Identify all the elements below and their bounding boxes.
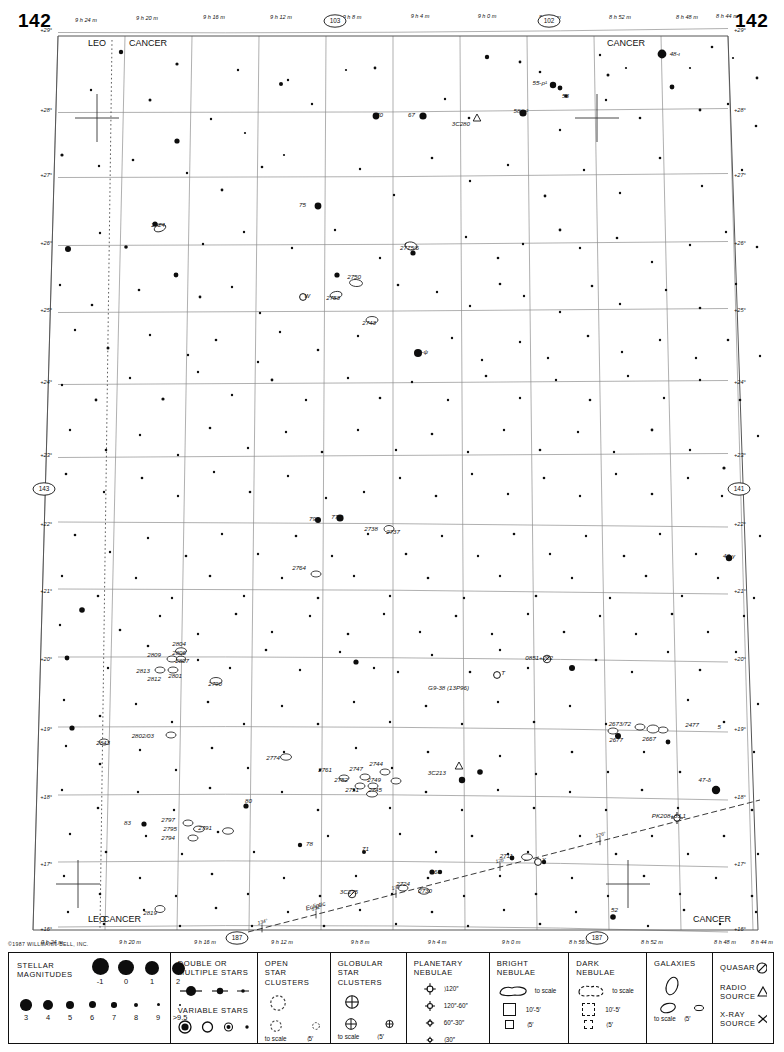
star-point [179, 925, 181, 927]
object-label: 0851+202 [525, 654, 553, 661]
star-point [595, 659, 598, 662]
star-point [59, 624, 61, 626]
star-point [577, 431, 579, 433]
star-point [711, 46, 714, 49]
star-point [687, 699, 689, 701]
star-point [727, 103, 729, 105]
star-point [643, 875, 646, 878]
variable-star-symbol-medium [223, 1020, 234, 1034]
dec-label-left: +28° [40, 107, 52, 113]
star-point [427, 751, 430, 754]
constellation-boundary [100, 40, 112, 930]
star-point [185, 555, 188, 558]
dec-label-left: +25° [40, 307, 52, 313]
chart-badge-label: 143 [39, 485, 50, 492]
star-point [105, 449, 108, 452]
object-label: 80 [245, 797, 252, 804]
star-point [735, 283, 737, 285]
object-label: 2813 [135, 667, 150, 674]
star-point [177, 495, 179, 497]
chart-badge[interactable]: 187 [226, 932, 248, 944]
ra-label-top: 9 h 16 m [203, 14, 225, 20]
star-point [323, 925, 326, 928]
legend-title-stellar-2: MAGNITUDES [17, 970, 73, 979]
star-point [334, 272, 339, 277]
star-point [197, 659, 199, 661]
dark-nebula-symbol-medium [582, 1003, 595, 1016]
magnitude-dot [134, 1003, 138, 1007]
star-point [315, 203, 322, 210]
star-point [60, 153, 63, 156]
object-label: T [501, 669, 506, 676]
star-point [527, 613, 529, 615]
dec-label-left: +29° [40, 27, 52, 33]
constellation-name: LEO [88, 38, 106, 48]
legend-title-globular-2: STAR CLUSTERS [338, 968, 400, 987]
star-point [279, 82, 283, 86]
legend-title-bright-1: BRIGHT [497, 959, 563, 968]
ra-label-bottom: 9 h 12 m [271, 939, 293, 945]
star-point [209, 575, 212, 578]
object-label: 2809 [146, 651, 161, 658]
chart-badge[interactable]: 187 [586, 932, 608, 944]
star-point [261, 166, 264, 169]
object-label: 52 [611, 906, 618, 913]
globular-cluster-scale-label: to scale [338, 1033, 360, 1040]
galaxy-symbol [311, 571, 321, 577]
star-point [513, 533, 516, 536]
star-point [465, 236, 467, 238]
star-point [559, 129, 561, 131]
star-point [197, 633, 199, 635]
star-point [311, 103, 313, 105]
legend-title-radio-2: SOURCE [720, 992, 756, 1001]
object-label: 53 [562, 92, 569, 99]
magnitude-dot [92, 958, 109, 975]
constellation-name: CANCER [103, 914, 142, 924]
star-point [721, 495, 723, 497]
star-point [159, 615, 161, 617]
chart-badge[interactable]: 141 [728, 483, 750, 495]
ecliptic-tick-label: 134° [257, 917, 268, 925]
dec-label-right: +20° [734, 656, 746, 662]
object-label: 2673/72 [608, 720, 632, 727]
object-label: 83 [124, 819, 131, 826]
ra-line-9 [661, 36, 681, 930]
galaxy-symbol [281, 754, 292, 760]
star-point [579, 495, 581, 497]
object-label: 3C280 [452, 120, 471, 127]
star-point [643, 751, 645, 753]
legend-title-dark-2: NEBULAE [576, 968, 640, 977]
galaxy-symbols-row [658, 1002, 706, 1014]
planetary-nebula-icon [422, 1033, 438, 1047]
chart-legend: STELLAR MAGNITUDES -1012 3456789>9.5 DOU… [8, 952, 774, 1044]
star-point [471, 835, 474, 838]
star-point [309, 615, 311, 617]
star-point [739, 399, 742, 402]
star-point [615, 853, 618, 856]
star-point [610, 914, 616, 920]
star-point [257, 361, 259, 363]
star-point [667, 651, 669, 653]
chart-badge[interactable]: 102 [538, 15, 560, 27]
star-point [523, 295, 525, 297]
dark-nebula-row-scale: to scale [576, 983, 640, 999]
star-point [467, 925, 469, 927]
chart-badge[interactable]: 103 [324, 15, 346, 27]
star-point [543, 477, 546, 480]
star-point [461, 809, 463, 811]
magnitude-sample-6: 6 [81, 1001, 103, 1021]
galaxy-symbol [349, 279, 363, 287]
ra-label-bottom: 8 h 44 m [751, 939, 773, 945]
star-point [527, 667, 529, 669]
ra-label-bottom: 9 h 20 m [119, 939, 141, 945]
xray-source-icon [756, 1012, 768, 1026]
galaxy-symbol [608, 728, 618, 734]
star-point [463, 597, 465, 599]
object-label: W [304, 292, 311, 299]
chart-badge[interactable]: 143 [33, 483, 55, 495]
dec-label-right: +26° [734, 240, 746, 246]
magnitude-label: -1 [97, 977, 104, 986]
object-label: 2737 [385, 528, 400, 535]
magnitude-label: 4 [46, 1013, 50, 1022]
sky-map[interactable]: Ecliptic134°132°130°128°126°48-ι55-ρ¹535… [0, 0, 784, 1052]
